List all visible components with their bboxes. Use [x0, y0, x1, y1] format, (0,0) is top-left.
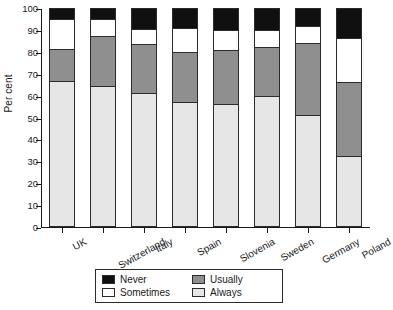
x-tick-mark	[103, 228, 104, 233]
bar-poland[interactable]	[336, 8, 362, 227]
legend-item-always[interactable]: Always	[192, 287, 276, 299]
dark-grey-swatch	[192, 275, 205, 284]
y-tick-label: 70	[27, 69, 38, 80]
y-tick-label: 20	[27, 178, 38, 189]
legend-label: Never	[120, 274, 147, 286]
bar-segment-never[interactable]	[172, 8, 198, 28]
bar-segment-sometimes[interactable]	[172, 28, 198, 52]
white-swatch	[102, 288, 115, 297]
x-tick-mark	[267, 228, 268, 233]
bar-segment-always[interactable]	[90, 86, 116, 227]
bar-uk[interactable]	[49, 8, 75, 227]
y-tick-label: 10	[27, 200, 38, 211]
bar-segment-sometimes[interactable]	[336, 38, 362, 83]
y-axis-line	[41, 9, 42, 228]
bar-germany[interactable]	[295, 8, 321, 227]
bar-segment-sometimes[interactable]	[131, 29, 157, 44]
bar-italy[interactable]	[131, 8, 157, 227]
legend-label: Usually	[210, 274, 243, 286]
bar-spain[interactable]	[172, 8, 198, 227]
x-tick-mark	[226, 228, 227, 233]
x-tick-mark	[185, 228, 186, 233]
chart-legend: NeverUsuallySometimesAlways	[95, 269, 283, 303]
bar-segment-never[interactable]	[131, 8, 157, 29]
light-grey-swatch	[192, 288, 205, 297]
bar-segment-never[interactable]	[213, 8, 239, 30]
bar-segment-usually[interactable]	[49, 49, 75, 82]
legend-item-usually[interactable]: Usually	[192, 274, 276, 286]
bar-segment-always[interactable]	[131, 93, 157, 227]
x-tick-mark	[62, 228, 63, 233]
y-tick-label: 100	[22, 3, 38, 14]
bar-segment-sometimes[interactable]	[90, 19, 116, 37]
bar-segment-never[interactable]	[49, 8, 75, 19]
y-axis-title: Per cent	[3, 58, 14, 130]
bar-segment-sometimes[interactable]	[254, 30, 280, 48]
y-tick-label: 60	[27, 91, 38, 102]
bar-switzerland[interactable]	[90, 8, 116, 227]
y-tick-label: 50	[27, 113, 38, 124]
x-tick-mark	[308, 228, 309, 233]
bar-segment-usually[interactable]	[131, 44, 157, 93]
x-axis-label-slovenia: Slovenia	[238, 236, 277, 265]
bar-segment-never[interactable]	[295, 8, 321, 26]
y-tick-label: 0	[33, 222, 38, 233]
plot-area: 0102030405060708090100	[41, 9, 370, 228]
bar-slovenia[interactable]	[213, 8, 239, 227]
x-axis-line	[41, 227, 370, 228]
legend-label: Sometimes	[120, 287, 170, 299]
y-tick-label: 90	[27, 25, 38, 36]
bar-segment-sometimes[interactable]	[295, 26, 321, 44]
bar-sweden[interactable]	[254, 8, 280, 227]
bar-segment-never[interactable]	[254, 8, 280, 30]
y-tick-label: 80	[27, 47, 38, 58]
black-swatch	[102, 275, 115, 284]
bar-segment-usually[interactable]	[336, 82, 362, 155]
bar-segment-always[interactable]	[172, 102, 198, 227]
bar-segment-never[interactable]	[336, 8, 362, 38]
x-axis-label-poland: Poland	[360, 236, 393, 262]
bar-segment-always[interactable]	[213, 104, 239, 227]
bar-segment-usually[interactable]	[254, 47, 280, 95]
y-tick-label: 40	[27, 134, 38, 145]
bar-segment-always[interactable]	[295, 115, 321, 227]
legend-item-never[interactable]: Never	[102, 274, 186, 286]
bar-segment-always[interactable]	[254, 96, 280, 227]
bar-segment-always[interactable]	[336, 156, 362, 227]
bar-segment-sometimes[interactable]	[49, 19, 75, 49]
x-axis-label-uk: UK	[70, 236, 88, 253]
bar-segment-usually[interactable]	[295, 43, 321, 115]
x-axis-label-spain: Spain	[195, 236, 223, 259]
bar-segment-usually[interactable]	[90, 36, 116, 85]
bar-segment-usually[interactable]	[172, 52, 198, 102]
x-tick-mark	[144, 228, 145, 233]
legend-label: Always	[210, 287, 242, 299]
legend-item-sometimes[interactable]: Sometimes	[102, 287, 186, 299]
x-axis-label-germany: Germany	[320, 236, 362, 266]
bar-segment-always[interactable]	[49, 81, 75, 227]
bar-segment-usually[interactable]	[213, 50, 239, 105]
x-tick-mark	[349, 228, 350, 233]
y-tick-label: 30	[27, 156, 38, 167]
bar-segment-sometimes[interactable]	[213, 30, 239, 50]
x-axis-label-sweden: Sweden	[279, 236, 316, 264]
bar-segment-never[interactable]	[90, 8, 116, 19]
